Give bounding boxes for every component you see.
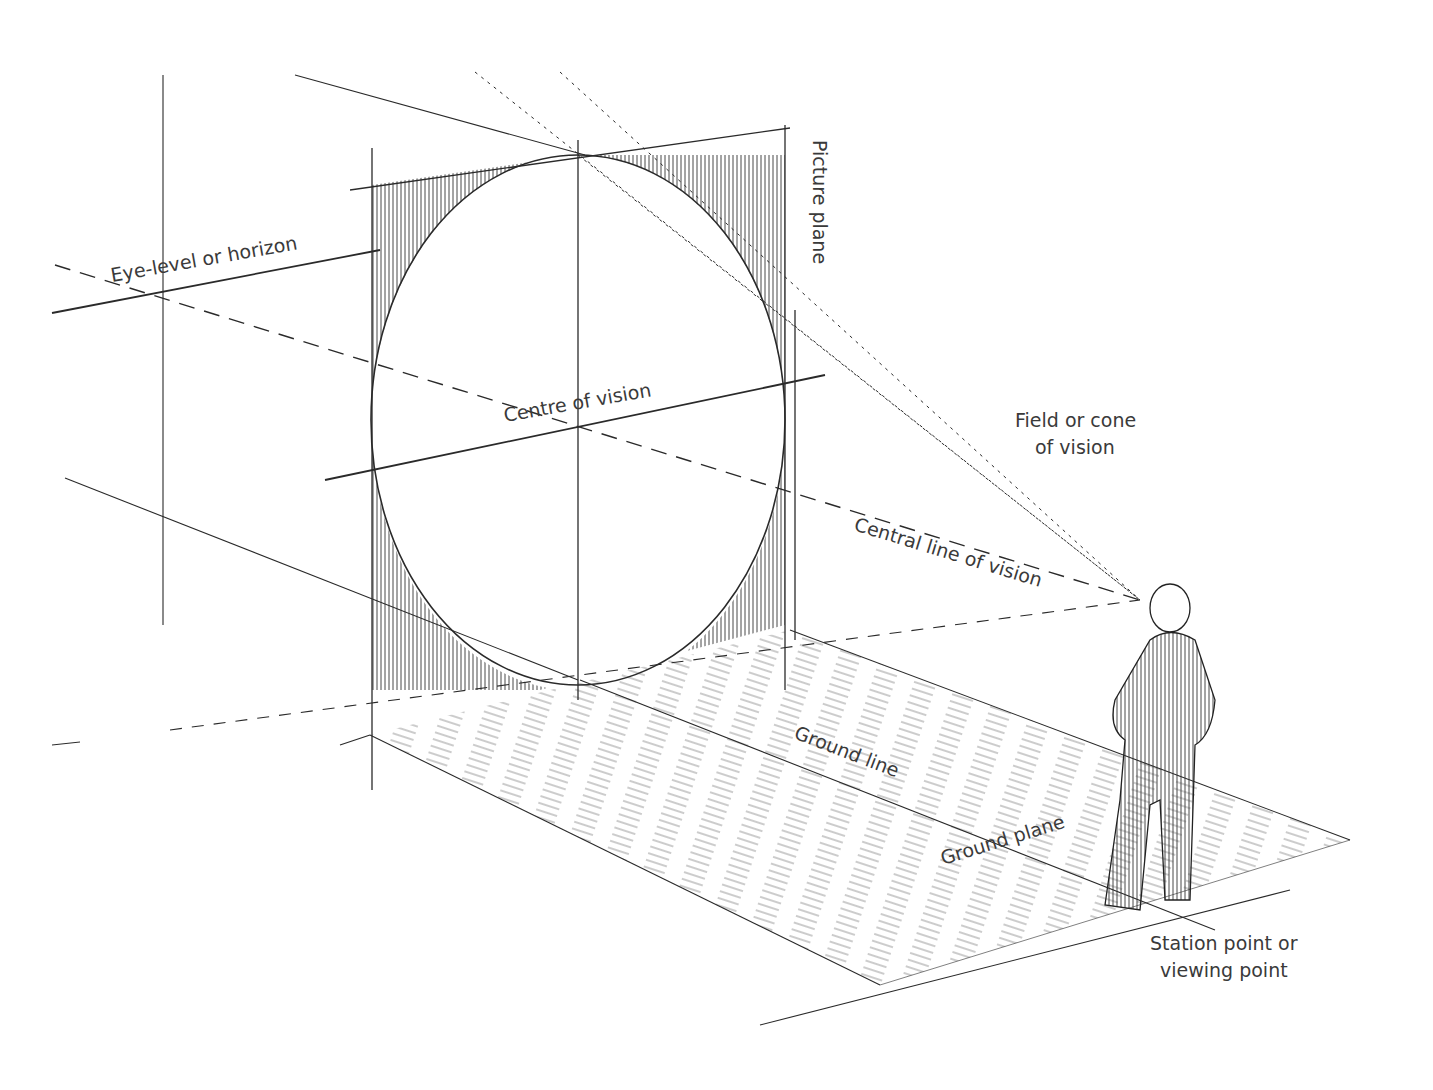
field-of-vision-label-1: Field or cone xyxy=(1015,409,1136,431)
picture-plane-label: Picture plane xyxy=(809,140,831,264)
eye-level-label: Eye-level or horizon xyxy=(109,231,299,285)
perspective-diagram: Eye-level or horizon Picture plane Centr… xyxy=(0,0,1433,1090)
field-of-vision-label-2: of vision xyxy=(1035,436,1115,458)
station-point-label-2: viewing point xyxy=(1160,959,1288,981)
sight-line-stub xyxy=(52,742,80,745)
cone-of-vision-lines xyxy=(475,72,1140,600)
central-line-of-vision-label: Central line of vision xyxy=(852,513,1045,591)
centre-of-vision-label: Centre of vision xyxy=(502,378,653,426)
station-point-label-1: Station point or xyxy=(1150,932,1298,954)
